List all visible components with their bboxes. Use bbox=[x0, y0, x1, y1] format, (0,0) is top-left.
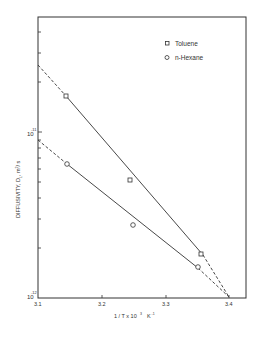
xtick-3-2: 3.2 bbox=[98, 301, 106, 307]
legend-square-icon bbox=[166, 42, 170, 46]
y-tick-labels: 10 -11 10 -12 bbox=[27, 127, 38, 300]
legend-hexane-label: n-Hexane bbox=[175, 54, 204, 61]
svg-text:DIFFUSIVITY, DL, m2/ s: DIFFUSIVITY, DL, m2/ s bbox=[15, 160, 23, 218]
ytick-high-exp: -11 bbox=[31, 127, 37, 132]
toluene-fit-line bbox=[38, 65, 229, 297]
plot-frame bbox=[38, 17, 246, 298]
xlabel-unit-exp: -1 bbox=[152, 312, 155, 316]
hexane-point bbox=[131, 223, 136, 228]
x-tick-labels: 3.1 3.2 3.3 3.4 bbox=[34, 301, 233, 307]
hexane-point bbox=[65, 162, 70, 167]
legend-circle-icon bbox=[165, 56, 169, 60]
toluene-point bbox=[199, 252, 203, 256]
ytick-low-exp: -12 bbox=[31, 290, 38, 295]
legend-toluene-label: Toluene bbox=[175, 40, 198, 47]
legend: Toluene n-Hexane bbox=[165, 40, 204, 61]
xtick-3-1: 3.1 bbox=[34, 301, 42, 307]
diffusivity-chart: Toluene n-Hexane 10 -11 10 -12 3.1 3.2 3… bbox=[0, 0, 259, 337]
ylabel-main: DIFFUSIVITY, D bbox=[15, 178, 21, 218]
xlabel-exp: 3 bbox=[140, 312, 142, 316]
toluene-point bbox=[64, 94, 68, 98]
hexane-point bbox=[196, 265, 201, 270]
xlabel-main: 1 / T x 10 bbox=[114, 313, 137, 319]
x-axis-label: 1 / T x 10 3 K -1 bbox=[114, 312, 155, 319]
xlabel-unit: K bbox=[147, 313, 151, 319]
ylabel-unit-tail: / s bbox=[15, 160, 21, 166]
toluene-point bbox=[128, 178, 132, 182]
xtick-3-3: 3.3 bbox=[162, 301, 170, 307]
y-axis-label: DIFFUSIVITY, DL, m2/ s bbox=[15, 160, 23, 218]
xtick-3-4: 3.4 bbox=[225, 301, 233, 307]
